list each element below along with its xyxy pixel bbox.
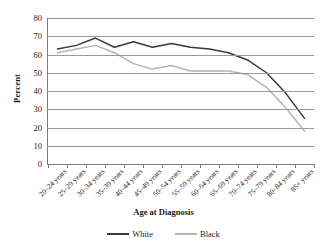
y-tick-label: 10 (24, 142, 42, 150)
y-tick-label: 30 (24, 105, 42, 113)
chart-legend: WhiteBlack (0, 229, 327, 239)
legend-swatch-icon (175, 233, 197, 235)
y-tick-label: 70 (24, 32, 42, 40)
gridline (48, 36, 314, 37)
y-axis-tick-labels: 01020304050607080 (24, 18, 42, 164)
gridline (48, 55, 314, 56)
x-tick-mark (314, 164, 315, 168)
plot-area (47, 18, 314, 165)
y-axis-title: Percent (10, 50, 24, 126)
legend-swatch-icon (107, 233, 129, 235)
gridline (48, 91, 314, 92)
gridline (48, 146, 314, 147)
y-tick-label: 80 (24, 14, 42, 22)
y-tick-label: 60 (24, 51, 42, 59)
legend-label: White (132, 229, 153, 239)
series-line-white (58, 38, 305, 118)
x-axis-tick-labels: 20–24 years25–29 years30–34 years35–39 y… (47, 167, 313, 211)
y-tick-label: 40 (24, 87, 42, 95)
legend-label: Black (200, 229, 220, 239)
y-tick-label: 0 (24, 160, 42, 168)
legend-item-white[interactable]: White (107, 229, 153, 239)
y-tick-label: 20 (24, 124, 42, 132)
y-tick-label: 50 (24, 69, 42, 77)
x-axis-title: Age at Diagnosis (0, 207, 327, 217)
line-chart: Percent 01020304050607080 20–24 years25–… (0, 0, 327, 252)
gridline (48, 73, 314, 74)
gridline (48, 109, 314, 110)
gridline (48, 128, 314, 129)
legend-item-black[interactable]: Black (175, 229, 220, 239)
gridline (48, 18, 314, 19)
series-line-black (58, 45, 305, 131)
